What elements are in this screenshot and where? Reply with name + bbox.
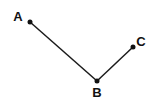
label-b: B (92, 85, 101, 99)
point-a (28, 20, 33, 25)
point-c (131, 45, 136, 50)
segment-bc (97, 47, 133, 81)
label-a: A (13, 9, 23, 24)
segment-ab (30, 22, 97, 81)
angle-diagram: A B C (0, 0, 153, 99)
label-c: C (136, 34, 146, 49)
point-b (95, 79, 100, 84)
